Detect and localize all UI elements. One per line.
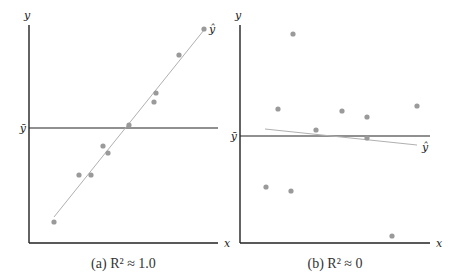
data-point — [275, 106, 280, 111]
panel-b: yxȳŷ(b) R² ≈ 0 — [230, 9, 443, 272]
x-axis-label: x — [224, 237, 231, 250]
mean-label: ȳ — [230, 130, 238, 143]
panel-a: yxȳŷ(a) R² ≈ 1.0 — [19, 9, 231, 272]
data-point — [201, 26, 206, 31]
data-point — [51, 219, 56, 224]
fit-label: ŷ — [421, 141, 429, 154]
data-point — [88, 172, 93, 177]
data-point — [339, 108, 344, 113]
data-point — [414, 103, 419, 108]
mean-label: ȳ — [19, 122, 27, 135]
data-point — [364, 114, 369, 119]
data-point — [263, 184, 268, 189]
data-point — [313, 127, 318, 132]
fit-label: ŷ — [208, 23, 216, 36]
x-axis-label: x — [436, 237, 443, 250]
panel-caption: (a) R² ≈ 1.0 — [91, 256, 156, 272]
data-point — [126, 122, 131, 127]
data-point — [100, 143, 105, 148]
data-point — [389, 233, 394, 238]
data-point — [153, 90, 158, 95]
data-point — [290, 31, 295, 36]
data-point — [151, 99, 156, 104]
data-point — [288, 188, 293, 193]
chart-canvas: yxȳŷ(a) R² ≈ 1.0yxȳŷ(b) R² ≈ 0 — [0, 0, 459, 280]
data-point — [176, 52, 181, 57]
y-axis-label: y — [23, 9, 31, 22]
data-point — [105, 150, 110, 155]
fit-line — [265, 129, 417, 145]
panel-caption: (b) R² ≈ 0 — [307, 256, 362, 272]
y-axis-label: y — [234, 9, 242, 22]
data-point — [76, 172, 81, 177]
data-point — [364, 135, 369, 140]
